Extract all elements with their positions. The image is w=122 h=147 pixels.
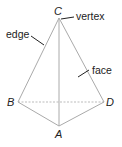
- edge-ba: [18, 102, 59, 126]
- edge-pointer: [31, 36, 44, 45]
- vertex-annotation: vertex: [76, 10, 105, 22]
- tetrahedron-diagram: C B D A vertex edge face: [0, 0, 122, 147]
- edge-da: [59, 102, 104, 126]
- vertex-label-d: D: [106, 96, 114, 108]
- vertex-pointer: [61, 17, 74, 19]
- vertex-label-c: C: [54, 5, 62, 17]
- vertex-label-a: A: [54, 128, 62, 140]
- edge-annotation: edge: [6, 28, 30, 40]
- edge-cd: [59, 18, 104, 102]
- face-pointer: [78, 70, 89, 77]
- face-annotation: face: [92, 64, 112, 76]
- vertex-label-b: B: [7, 96, 14, 108]
